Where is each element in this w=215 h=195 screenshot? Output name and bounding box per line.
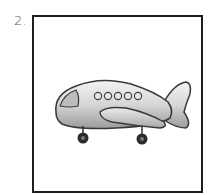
airplane-icon <box>46 72 196 152</box>
item-number: 2. <box>14 13 26 28</box>
image-frame <box>32 15 203 193</box>
